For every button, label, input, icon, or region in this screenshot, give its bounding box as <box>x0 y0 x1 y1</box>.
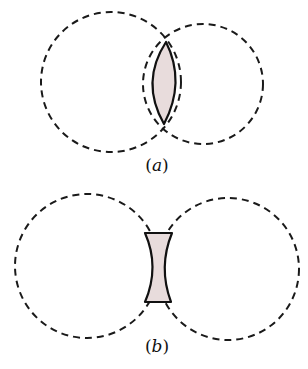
lens-diagram-canvas <box>0 0 308 369</box>
diagram-b-right-circle <box>157 198 299 340</box>
diagram-b-left-circle <box>15 194 159 338</box>
diagram-a <box>41 12 263 152</box>
diagram-a-label: (a) <box>127 155 187 175</box>
label-paren-close: ) <box>162 336 169 356</box>
diagram-b-label: (b) <box>127 336 187 356</box>
diagram-b-concave-lens <box>145 233 172 302</box>
label-paren-close: ) <box>162 155 169 175</box>
label-paren-open: ( <box>145 336 152 356</box>
label-letter: b <box>152 336 163 356</box>
label-letter: a <box>152 155 162 175</box>
label-paren-open: ( <box>145 155 152 175</box>
diagram-b <box>15 194 299 340</box>
diagram-a-convex-lens <box>152 42 175 124</box>
